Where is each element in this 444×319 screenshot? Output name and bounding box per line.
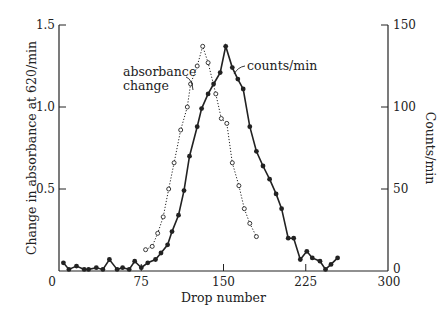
counts-data-point — [120, 265, 125, 270]
counts-data-point — [187, 154, 192, 159]
counts-series — [61, 44, 340, 272]
counts-data-point — [323, 267, 328, 272]
absorbance-data-point — [219, 117, 223, 121]
counts-data-point — [298, 257, 303, 262]
chart: 1.5 1.0 0.5 150 100 50 0 0 75 150 225 30… — [0, 0, 444, 319]
counts-data-point — [254, 149, 259, 154]
x-tick-labels: 0 75 150 225 300 — [48, 275, 400, 289]
counts-data-point — [195, 124, 200, 129]
counts-data-point — [159, 251, 164, 256]
counts-data-point — [318, 259, 323, 264]
counts-data-point — [82, 267, 87, 272]
absorbance-data-point — [254, 235, 258, 239]
counts-data-point — [329, 262, 334, 267]
counts-data-point — [218, 70, 223, 75]
counts-data-point — [145, 260, 150, 265]
counts-data-point — [286, 236, 291, 241]
absorbance-data-point — [206, 61, 210, 65]
counts-data-point — [170, 229, 175, 234]
x-tick: 150 — [212, 275, 235, 289]
y-right-tick: 50 — [393, 182, 408, 196]
counts-data-point — [94, 265, 99, 270]
x-tick: 225 — [294, 275, 317, 289]
counts-data-point — [230, 65, 235, 70]
y-axis-left-title: Change in absorbance at 620/min — [24, 41, 39, 255]
ticks — [59, 25, 388, 271]
counts-data-point — [182, 188, 187, 193]
counts-data-point — [261, 164, 266, 169]
counts-data-point — [274, 192, 279, 197]
absorbance-data-point — [214, 92, 218, 96]
counts-data-point — [61, 260, 66, 265]
absorbance-data-point — [185, 105, 189, 109]
x-tick: 75 — [134, 275, 149, 289]
counts-data-point — [310, 256, 315, 261]
x-tick: 300 — [378, 275, 401, 289]
axes — [59, 25, 388, 271]
y-right-tick: 0 — [393, 262, 401, 276]
absorbance-data-point — [167, 187, 171, 191]
absorbance-data-point — [144, 248, 148, 252]
counts-data-point — [107, 257, 112, 262]
counts-data-point — [86, 267, 91, 272]
absorbance-data-point — [201, 44, 205, 48]
x-axis-title: Drop number — [181, 290, 266, 305]
counts-line — [63, 46, 337, 269]
counts-data-point — [235, 77, 240, 82]
absorbance-data-point — [150, 244, 154, 248]
annotation-absorbance-line1: absorbance — [123, 64, 196, 79]
counts-data-point — [206, 92, 211, 97]
absorbance-data-point — [237, 184, 241, 188]
x-tick: 0 — [48, 275, 56, 289]
absorbance-data-point — [161, 215, 165, 219]
counts-data-point — [199, 106, 204, 111]
counts-data-point — [247, 124, 252, 129]
counts-data-point — [279, 206, 284, 211]
y-left-tick: 1.5 — [36, 18, 55, 32]
absorbance-data-point — [225, 121, 229, 125]
y-axis-right-title: Counts/min — [423, 112, 438, 185]
absorbance-data-point — [179, 128, 183, 132]
counts-data-point — [241, 87, 246, 92]
annotation-absorbance-line2: change — [123, 78, 169, 93]
absorbance-data-point — [248, 221, 252, 225]
counts-data-point — [291, 236, 296, 241]
counts-data-point — [165, 242, 170, 247]
counts-data-point — [267, 177, 272, 182]
absorbance-data-point — [172, 161, 176, 165]
counts-data-point — [101, 267, 106, 272]
absorbance-data-point — [156, 231, 160, 235]
annotations: absorbance change counts/min — [123, 58, 317, 93]
counts-data-point — [115, 267, 120, 272]
counts-data-point — [176, 213, 181, 218]
counts-data-point — [139, 265, 144, 270]
counts-data-point — [223, 44, 228, 49]
counts-data-point — [132, 259, 137, 264]
counts-data-point — [153, 257, 158, 262]
absorbance-data-point — [242, 207, 246, 211]
y-right-tick: 100 — [393, 100, 416, 114]
counts-data-point — [335, 256, 340, 261]
y-right-tick-labels: 150 100 50 0 — [393, 18, 416, 276]
absorbance-data-point — [230, 161, 234, 165]
y-right-tick: 150 — [393, 18, 416, 32]
counts-data-point — [304, 249, 309, 254]
counts-data-point — [211, 82, 216, 87]
annotation-counts: counts/min — [247, 58, 317, 73]
counts-data-point — [67, 267, 72, 272]
counts-data-point — [74, 264, 79, 269]
counts-data-point — [127, 267, 132, 272]
